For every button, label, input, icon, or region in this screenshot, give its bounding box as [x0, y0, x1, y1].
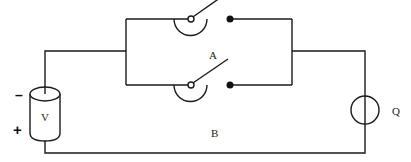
- circuit-diagram: V – + A B Q: [0, 0, 411, 162]
- wire-left-top: [45, 51, 126, 85]
- switch-a-contact-icon: [227, 16, 234, 23]
- switch-a: A: [174, 0, 234, 61]
- switch-a-pivot-icon: [188, 16, 194, 22]
- load-label: Q: [392, 105, 400, 117]
- switch-b-pivot-icon: [188, 82, 194, 88]
- voltage-source: V – +: [13, 85, 60, 141]
- load-q: Q: [351, 96, 400, 124]
- positive-sign: +: [13, 121, 22, 138]
- source-label: V: [41, 111, 49, 123]
- switch-a-lever-icon: [190, 0, 227, 19]
- switch-b-contact-icon: [227, 82, 234, 89]
- switch-a-label: A: [209, 49, 217, 61]
- wire-bottom: [45, 134, 365, 153]
- switch-b-lever-icon: [190, 59, 228, 85]
- wire-right-top: [292, 51, 365, 138]
- wires: [45, 19, 365, 153]
- switch-b-label: B: [211, 127, 218, 139]
- switch-b: B: [174, 59, 234, 139]
- negative-sign: –: [15, 87, 23, 103]
